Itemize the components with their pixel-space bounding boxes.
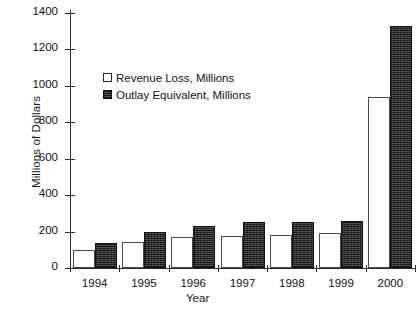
bar-revenue-loss <box>221 236 243 268</box>
x-axis-tick-label: 1998 <box>269 277 315 289</box>
y-axis-tick-label: 1000 <box>32 78 58 90</box>
x-axis-title: Year <box>186 292 209 304</box>
y-axis-tick: 200 <box>65 232 75 233</box>
y-axis-tick-label: 1400 <box>32 5 58 17</box>
y-axis-tick: 1400 <box>65 13 75 14</box>
y-axis-tick-label: 800 <box>39 114 58 126</box>
x-axis-tick <box>267 265 268 272</box>
bar-outlay-equivalent <box>390 26 412 268</box>
bar-outlay-equivalent <box>144 232 166 268</box>
x-axis-tick-label: 1999 <box>318 277 364 289</box>
y-axis-tick-label: 1200 <box>32 41 58 53</box>
x-axis-tick <box>415 265 416 272</box>
bar-revenue-loss <box>270 235 292 268</box>
bar-outlay-equivalent <box>243 222 265 268</box>
y-axis-tick-label: 600 <box>39 151 58 163</box>
hollow-square-icon <box>103 73 112 82</box>
legend-label-outlay-equivalent: Outlay Equivalent, Millions <box>116 89 251 101</box>
chart-legend: Revenue Loss, Millions Outlay Equivalent… <box>103 70 251 104</box>
x-axis-tick-label: 1994 <box>72 277 118 289</box>
bar-revenue-loss <box>171 237 193 268</box>
x-axis-tick <box>119 265 120 272</box>
bar-revenue-loss <box>122 242 144 268</box>
filled-hatched-square-icon <box>103 90 112 99</box>
x-axis-tick <box>70 265 71 272</box>
x-axis-tick-label: 1996 <box>170 277 216 289</box>
x-axis-tick-label: 1997 <box>220 277 266 289</box>
bar-outlay-equivalent <box>292 222 314 268</box>
bar-revenue-loss <box>319 233 341 268</box>
y-axis-tick: 1200 <box>65 49 75 50</box>
x-axis-tick <box>316 265 317 272</box>
plot-area: 0200400600800100012001400 19941995199619… <box>70 13 415 268</box>
x-axis-tick <box>169 265 170 272</box>
y-axis-tick-label: 400 <box>39 187 58 199</box>
x-axis-tick <box>218 265 219 272</box>
y-axis-tick: 800 <box>65 122 75 123</box>
bar-outlay-equivalent <box>95 243 117 269</box>
y-axis-tick-label: 0 <box>52 260 58 272</box>
bar-outlay-equivalent <box>193 226 215 268</box>
x-axis-tick-label: 1995 <box>121 277 167 289</box>
x-axis-tick <box>366 265 367 272</box>
legend-label-revenue-loss: Revenue Loss, Millions <box>116 72 234 84</box>
x-axis-line <box>70 268 415 269</box>
bar-outlay-equivalent <box>341 221 363 268</box>
y-axis-tick-label: 200 <box>39 224 58 236</box>
y-axis-tick: 1000 <box>65 86 75 87</box>
bar-chart: Millions of Dollars Year 020040060080010… <box>0 0 419 315</box>
legend-item-outlay-equivalent: Outlay Equivalent, Millions <box>103 87 251 102</box>
x-axis-tick-label: 2000 <box>367 277 413 289</box>
y-axis-tick: 600 <box>65 159 75 160</box>
y-axis-tick: 400 <box>65 195 75 196</box>
bar-revenue-loss <box>368 97 390 268</box>
bar-revenue-loss <box>73 250 95 268</box>
legend-item-revenue-loss: Revenue Loss, Millions <box>103 70 251 85</box>
